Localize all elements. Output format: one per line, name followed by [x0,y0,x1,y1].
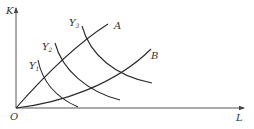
isoquant-y2 [55,43,120,100]
isoquant-diagram: K L O A B Y1 Y2 Y3 [0,0,254,129]
y-axis-label: K [5,5,14,16]
isoquant-y3-label: Y3 [69,17,80,29]
ray-b [16,49,151,108]
ray-a-label: A [113,20,121,31]
isoquant-y3-sub: 3 [76,22,80,29]
isoquant-y2-label: Y2 [42,41,53,53]
origin-label: O [10,111,18,122]
isoquant-y2-sub: 2 [48,46,53,53]
isoquant-y1-sub: 1 [36,65,40,72]
x-axis-label: L [235,112,243,123]
ray-b-label: B [150,50,158,61]
